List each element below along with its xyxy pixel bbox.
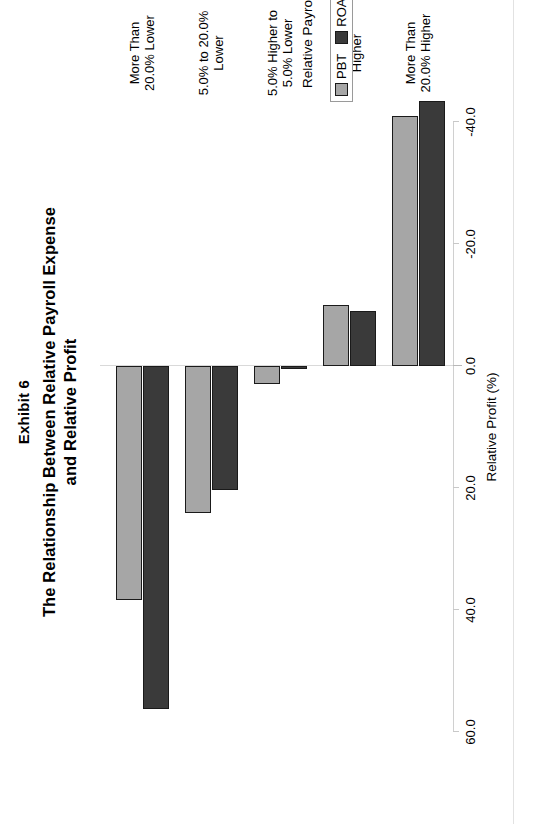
bar-roa [350, 311, 376, 366]
value-axis-tick [453, 243, 459, 244]
category-label-line-2: 20.0% Lower [143, 0, 159, 116]
value-axis: 60.040.020.00.0-20.0-40.0 [453, 122, 454, 732]
category-axis-label: More Than20.0% Lower [127, 0, 158, 116]
chart-titles: Exhibit 6 The Relationship Between Relat… [14, 0, 81, 824]
category-label-line-1: More Than [127, 0, 143, 116]
value-axis-tick-label: -40.0 [463, 107, 478, 137]
value-axis-tick-label: 60.0 [463, 719, 478, 744]
value-axis-tick [453, 609, 459, 610]
legend-item-roa: ROA [334, 0, 349, 44]
category-label-line-1: 5.0% Higher to [265, 0, 281, 116]
value-axis-tick-label: 20.0 [463, 475, 478, 500]
bar-group [384, 122, 453, 732]
value-axis-tick [453, 365, 462, 366]
bar-pbt [116, 366, 142, 600]
bar-group [108, 122, 177, 732]
value-axis-title: Relative Profit (%) [484, 122, 499, 732]
page-edge-line [513, 0, 514, 824]
value-axis-tick [453, 487, 459, 488]
page-title: The Relationship Between Relative Payrol… [39, 0, 81, 824]
value-axis-tick-label: 40.0 [463, 597, 478, 622]
bar-group [315, 122, 384, 732]
category-axis-title: Relative Payroll [300, 0, 315, 106]
bar-group [177, 122, 246, 732]
bar-roa [281, 366, 307, 369]
legend-label-roa: ROA [334, 0, 349, 27]
legend-item-pbt: PBT [334, 54, 349, 96]
category-label-line-1: More Than [403, 0, 419, 116]
rotated-figure-stage: Exhibit 6 The Relationship Between Relat… [0, 0, 540, 824]
chart-figure: Exhibit 6 The Relationship Between Relat… [0, 0, 540, 824]
title-line-2: and Relative Profit [60, 0, 81, 824]
category-label-line-2: Lower [212, 0, 228, 116]
bar-pbt [185, 366, 211, 513]
category-label-line-2: 20.0% Higher [419, 0, 435, 116]
legend-label-pbt: PBT [334, 54, 349, 79]
title-line-1: The Relationship Between Relative Payrol… [40, 207, 58, 617]
category-label-line-2: 5.0% Lower [281, 0, 297, 116]
exhibit-label: Exhibit 6 [14, 0, 33, 824]
bar-roa [419, 101, 445, 366]
bar-pbt [323, 305, 349, 366]
chart-legend: PBT ROA [330, 0, 353, 102]
category-axis-label: 5.0% to 20.0%Lower [196, 0, 227, 116]
bar-roa [212, 366, 238, 490]
legend-swatch-pbt-icon [335, 83, 348, 96]
bar-roa [143, 366, 169, 709]
value-axis-tick-label: 0.0 [463, 357, 478, 375]
bars-container [108, 122, 453, 732]
bar-pbt [392, 116, 418, 366]
category-axis-label: 5.0% Higher to5.0% Lower [265, 0, 296, 116]
category-label-line-1: 5.0% to 20.0% [196, 0, 212, 116]
category-axis-label: More Than20.0% Higher [403, 0, 434, 116]
bar-group [246, 122, 315, 732]
bar-pbt [254, 366, 280, 384]
value-axis-tick [453, 121, 459, 122]
value-axis-tick [453, 731, 459, 732]
value-axis-tick-label: -20.0 [463, 229, 478, 259]
legend-swatch-roa-icon [335, 31, 348, 44]
plot-area [108, 122, 453, 732]
